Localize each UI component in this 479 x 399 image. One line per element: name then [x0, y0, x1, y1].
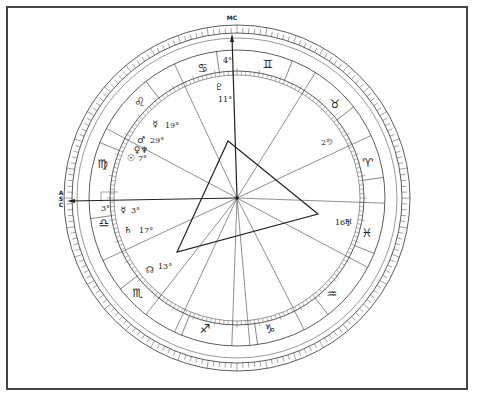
cusp-degree-labels: 4°3°: [101, 56, 232, 213]
planet-glyph-icon: ☿: [120, 205, 126, 215]
planet-glyph-icon: ♂: [137, 135, 145, 145]
planet-north-node: ☊13°: [146, 262, 172, 275]
sign-taurus-icon: ♉: [330, 97, 341, 111]
house-cusp: [174, 198, 237, 332]
planet-degree: 7°: [138, 154, 147, 163]
planet-mars: ♂29°: [137, 135, 164, 145]
planet-glyph-icon: ♄: [124, 225, 132, 235]
sign-gemini-icon: ♊: [263, 57, 274, 71]
house-cusp: [237, 198, 368, 267]
sign-leo-icon: ♌: [135, 95, 146, 109]
planet-degree: 29°: [150, 136, 164, 145]
mc-axis-line: [232, 36, 237, 198]
planet-uranus: ♅16°: [335, 218, 352, 228]
house-cusp: [237, 135, 371, 198]
mc-label: MC: [227, 14, 238, 21]
center-point: [235, 196, 239, 200]
trine-triangle: [177, 141, 318, 252]
aspect-triangle: [177, 141, 318, 252]
house-cusp: [146, 198, 237, 315]
planet-glyph-icon: ☿: [152, 119, 158, 129]
planet-pluto: ♇11°: [215, 82, 232, 104]
sign-aries-icon: ♈: [363, 156, 374, 170]
planet-moon: ☽2°: [321, 137, 333, 147]
house-cusp: [232, 198, 237, 346]
planet-glyph-icon: ☊: [146, 265, 154, 275]
planet-degree: 2°: [321, 138, 330, 147]
planet-sun: ☉7°: [127, 153, 147, 163]
cusp-degree: 4°: [223, 56, 232, 65]
sign-libra-icon: ♎: [99, 216, 110, 230]
house-cusp: [174, 64, 237, 198]
natal-chart-wheel: MC ASC ♈♉♊♋♌♍♎♏♐♑♒♓ ♇11°☿19°♂29°♀♆☉7°☿3°…: [0, 0, 479, 399]
sign-scorpio-icon: ♏: [133, 286, 144, 300]
sign-aquarius-icon: ♒: [327, 287, 338, 301]
sign-pisces-icon: ♓: [362, 226, 373, 240]
zodiac-signs: ♈♉♊♋♌♍♎♏♐♑♒♓: [98, 57, 374, 336]
sign-capricorn-icon: ♑: [265, 322, 276, 336]
planet-degree: 17°: [139, 226, 153, 235]
planet-glyph-icon: ☉: [127, 153, 135, 163]
planet-degree: 11°: [218, 95, 232, 104]
sign-cancer-icon: ♋: [198, 61, 209, 75]
svg-text:C: C: [59, 201, 64, 208]
planet-degree: 19°: [165, 121, 179, 130]
planet-saturn: ♄17°: [124, 225, 153, 235]
planet-mercury-leo: ☿19°: [152, 119, 179, 130]
sign-sagittarius-icon: ♐: [200, 322, 211, 336]
sign-virgo-icon: ♍: [98, 157, 109, 171]
planet-degree: 16°: [335, 218, 349, 227]
asc-label: ASC: [59, 189, 64, 208]
planet-degree: 13°: [158, 262, 172, 271]
house-cusp: [237, 72, 315, 198]
planet-degree: 3°: [131, 206, 140, 215]
house-cusp: [237, 198, 385, 203]
asc-arrow-icon: [67, 199, 75, 203]
planet-glyph-icon: ♇: [215, 82, 223, 92]
asc-axis-line: [70, 198, 237, 201]
planet-mercury-libra: ☿3°: [120, 205, 140, 215]
cusp-degree: 3°: [101, 204, 110, 213]
